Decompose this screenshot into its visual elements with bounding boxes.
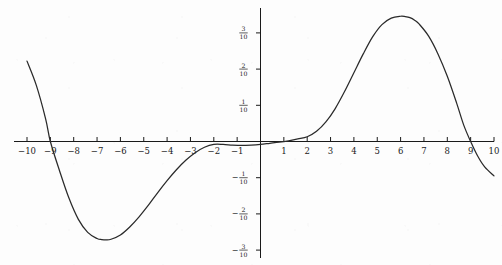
x-tick-label: 6 bbox=[398, 146, 403, 156]
x-tick-label: −6 bbox=[114, 146, 127, 156]
x-tick-label: 9 bbox=[468, 146, 473, 156]
y-tick-sign: − bbox=[232, 173, 239, 182]
y-tick-denominator: 10 bbox=[240, 70, 248, 77]
x-tick-label: 7 bbox=[421, 146, 426, 156]
x-tick-label: −3 bbox=[184, 146, 197, 156]
y-tick-denominator: 10 bbox=[240, 106, 248, 113]
y-tick-denominator: 10 bbox=[240, 33, 248, 40]
x-tick-label: 1 bbox=[281, 146, 286, 156]
y-tick-sign: − bbox=[232, 246, 239, 255]
y-tick-denominator: 10 bbox=[240, 178, 248, 185]
x-tick-label: 8 bbox=[445, 146, 450, 156]
x-tick-label: −4 bbox=[161, 146, 174, 156]
x-tick-label: 3 bbox=[328, 146, 333, 156]
y-tick-numerator: 2 bbox=[242, 62, 246, 69]
x-tick-label: −7 bbox=[91, 146, 104, 156]
y-tick-numerator: 1 bbox=[242, 170, 246, 177]
function-plot: −10−9−8−7−6−5−4−3−2−112345678910 3102101… bbox=[0, 0, 502, 265]
y-tick-sign: − bbox=[232, 209, 239, 218]
y-tick-numerator: 2 bbox=[242, 206, 246, 213]
x-tick-label: −8 bbox=[67, 146, 80, 156]
y-tick-numerator: 3 bbox=[242, 243, 246, 250]
x-tick-label: 4 bbox=[351, 146, 356, 156]
x-tick-label: 10 bbox=[489, 146, 500, 156]
y-tick-denominator: 10 bbox=[240, 251, 248, 258]
y-tick-numerator: 1 bbox=[242, 98, 246, 105]
x-tick-label: 5 bbox=[375, 146, 380, 156]
x-tick-label: −2 bbox=[208, 146, 221, 156]
x-tick-label: −1 bbox=[231, 146, 244, 156]
x-tick-label: −10 bbox=[18, 146, 36, 156]
x-axis-tick-labels: −10−9−8−7−6−5−4−3−2−112345678910 bbox=[18, 146, 499, 156]
y-tick-denominator: 10 bbox=[240, 214, 248, 221]
y-tick-numerator: 3 bbox=[242, 25, 246, 32]
x-tick-label: 2 bbox=[304, 146, 309, 156]
x-tick-label: −5 bbox=[137, 146, 150, 156]
